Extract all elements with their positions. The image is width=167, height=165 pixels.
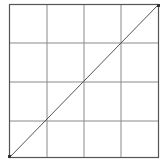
- control-point-black[interactable]: [8, 155, 11, 158]
- control-point-white[interactable]: [157, 4, 160, 7]
- curves-graph[interactable]: [0, 0, 167, 165]
- curves-canvas[interactable]: [0, 0, 167, 165]
